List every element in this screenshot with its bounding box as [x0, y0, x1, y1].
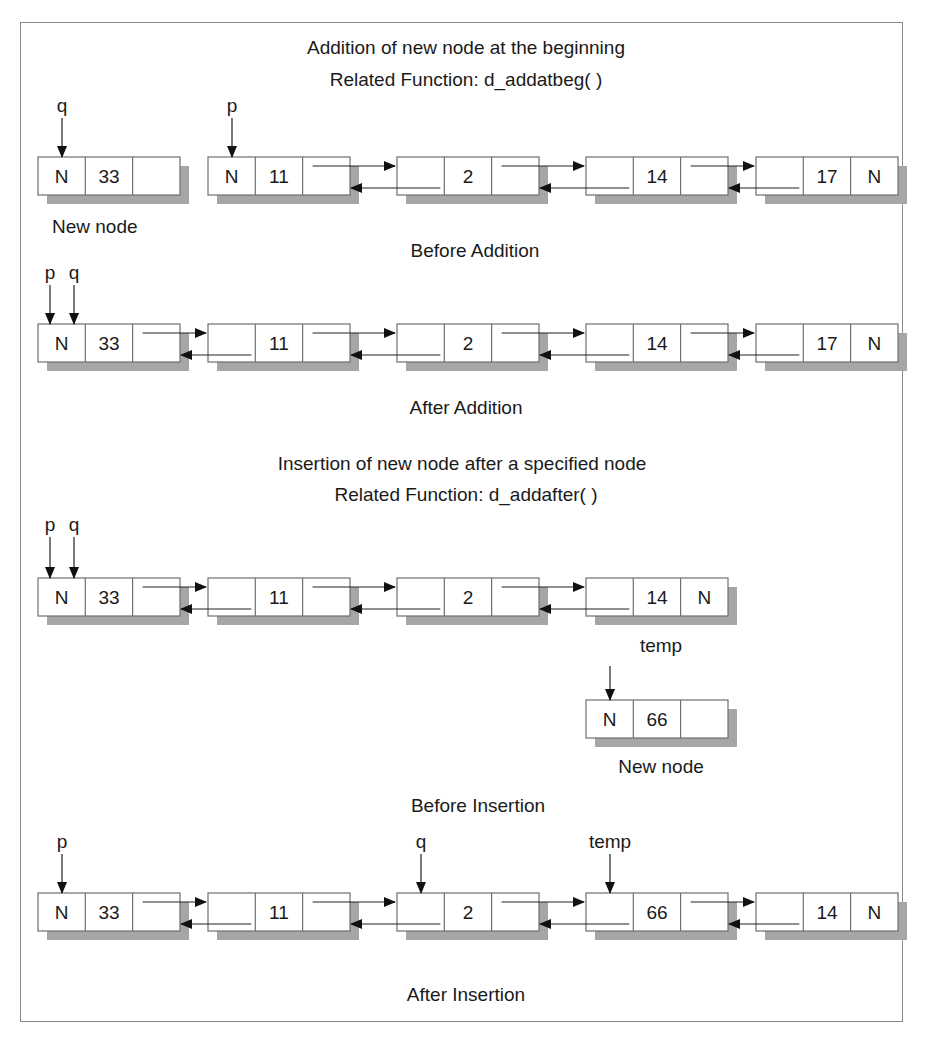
- node-cell-data: 33: [98, 902, 119, 923]
- node-cell-prev: N: [55, 902, 69, 923]
- s2-before-node-3: 14N: [586, 578, 737, 625]
- node-cell-data: 11: [269, 166, 289, 187]
- node-cell-prev: N: [603, 709, 617, 730]
- node-cell-data: 11: [269, 333, 289, 354]
- node-cell-data: 11: [269, 902, 289, 923]
- s2-new-node: N66: [586, 700, 737, 747]
- s2-pointer-q-label: q: [69, 514, 80, 535]
- node-cell-prev: N: [55, 166, 69, 187]
- node-cell-data: 11: [269, 587, 289, 608]
- s2-before-node-2: 2: [397, 578, 548, 625]
- s1-after-node-1: 11: [208, 324, 359, 371]
- node-cell-data: 2: [463, 902, 474, 923]
- s1-before-node-3: 17N: [756, 157, 907, 204]
- node-cell-data: 14: [646, 166, 668, 187]
- s1-before-new-node: N33: [38, 157, 189, 204]
- s2-after-node-2: 2: [397, 893, 548, 940]
- s2-after-pointer-temp-label: temp: [589, 831, 631, 852]
- s2-after-pointer-q-label: q: [416, 831, 427, 852]
- node-cell-data: 33: [98, 587, 119, 608]
- s1-before-node-0: N11: [208, 157, 359, 204]
- s1-after-pointer-q-label: q: [69, 262, 80, 283]
- node-cell-data: 14: [646, 333, 668, 354]
- s1-after-node-3: 14: [586, 324, 737, 371]
- node-cell-next: N: [697, 587, 711, 608]
- node-cell-prev: N: [55, 587, 69, 608]
- node-cell-data: 14: [816, 902, 838, 923]
- s2-after-pointer-p-label: p: [57, 831, 68, 852]
- node-cell-prev: N: [225, 166, 239, 187]
- s2-before-node-1: 11: [208, 578, 359, 625]
- node-cell-next: N: [867, 333, 881, 354]
- linked-list-diagram: N33N1121417NN331121417NN3311214NN66N3311…: [0, 0, 932, 1046]
- s1-pointer-q-label: q: [57, 95, 68, 116]
- s1-after-node-0: N33: [38, 324, 189, 371]
- s2-before-node-0: N33: [38, 578, 189, 625]
- node-cell-data: 66: [646, 709, 667, 730]
- pointers-layer: qppqpqpqtemp: [45, 95, 631, 893]
- s2-after-node-3: 66: [586, 893, 737, 940]
- node-cell-data: 2: [463, 587, 474, 608]
- node-cell-data: 17: [816, 333, 837, 354]
- s2-after-node-4: 14N: [756, 893, 907, 940]
- s2-after-node-0: N33: [38, 893, 189, 940]
- node-cell-next: N: [867, 902, 881, 923]
- node-cell-prev: N: [55, 333, 69, 354]
- node-cell-data: 33: [98, 333, 119, 354]
- node-cell-data: 66: [646, 902, 667, 923]
- links-layer: [143, 166, 800, 924]
- s1-after-node-4: 17N: [756, 324, 907, 371]
- s1-before-node-1: 2: [397, 157, 548, 204]
- node-cell-data: 14: [646, 587, 668, 608]
- s1-before-node-2: 14: [586, 157, 737, 204]
- s1-after-pointer-p-label: p: [45, 262, 56, 283]
- nodes-layer: N33N1121417NN331121417NN3311214NN66N3311…: [38, 157, 907, 940]
- s1-after-node-2: 2: [397, 324, 548, 371]
- node-cell-data: 2: [463, 166, 474, 187]
- s2-after-node-1: 11: [208, 893, 359, 940]
- s1-pointer-p-label: p: [227, 95, 238, 116]
- s2-pointer-p-label: p: [45, 514, 56, 535]
- node-cell-data: 2: [463, 333, 474, 354]
- node-cell-data: 17: [816, 166, 837, 187]
- node-cell-data: 33: [98, 166, 119, 187]
- node-cell-next: N: [867, 166, 881, 187]
